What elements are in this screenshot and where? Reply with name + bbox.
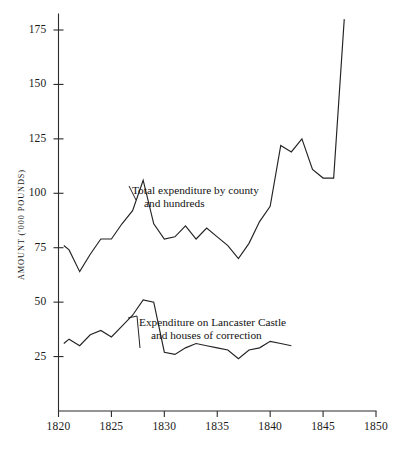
y-tick-label-125: 125 bbox=[13, 133, 47, 145]
x-tick-label-1830: 1830 bbox=[143, 421, 185, 433]
y-axis-title: AMOUNT ('000 POUNDS) bbox=[17, 160, 26, 290]
y-tick-label-150: 150 bbox=[13, 78, 47, 90]
y-tick-label-50: 50 bbox=[13, 296, 47, 308]
chart-figure: 255075100125150175 182018251830183518401… bbox=[0, 0, 395, 461]
x-tick-label-1845: 1845 bbox=[302, 421, 344, 433]
annotation-lancaster-castle: Expenditure on Lancaster Castle and hous… bbox=[139, 316, 286, 343]
annotation-upper-line1: Total expenditure by county bbox=[132, 184, 259, 196]
chart-plot-area bbox=[0, 0, 395, 461]
series-line-total-expenditure bbox=[64, 19, 344, 272]
annotation-lower-line1: Expenditure on Lancaster Castle bbox=[139, 316, 286, 328]
annotation-total-expenditure: Total expenditure by county and hundreds bbox=[132, 184, 259, 211]
y-tick-label-25: 25 bbox=[13, 351, 47, 363]
x-tick-marks bbox=[59, 411, 377, 417]
axis-group bbox=[59, 14, 377, 411]
x-tick-label-1850: 1850 bbox=[355, 421, 395, 433]
x-tick-label-1835: 1835 bbox=[196, 421, 238, 433]
y-tick-label-175: 175 bbox=[13, 24, 47, 36]
x-tick-label-1825: 1825 bbox=[90, 421, 132, 433]
annotation-upper-line2: and hundreds bbox=[132, 197, 259, 210]
annotation-lower-line2: and houses of correction bbox=[139, 329, 286, 342]
x-tick-label-1840: 1840 bbox=[249, 421, 291, 433]
x-tick-label-1820: 1820 bbox=[38, 421, 80, 433]
